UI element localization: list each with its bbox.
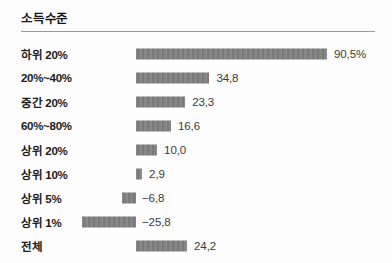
category-label: 상위 5% — [21, 190, 61, 206]
category-label: 중간 20% — [21, 94, 67, 110]
value-label: 34,8 — [216, 72, 238, 84]
bar — [82, 217, 136, 228]
income-level-bar-chart: 소득수준 하위 20%90,5%20%~40%34,8중간 20%23,360%… — [0, 0, 392, 263]
plot-area: 하위 20%90,5%20%~40%34,8중간 20%23,360%~80%1… — [0, 36, 392, 258]
bar — [122, 193, 136, 204]
chart-row: 상위 20%10,0 — [0, 138, 392, 162]
chart-row: 상위 10%2,9 — [0, 162, 392, 186]
bar — [136, 145, 157, 156]
chart-row: 20%~40%34,8 — [0, 66, 392, 90]
bar — [136, 73, 209, 84]
bar — [136, 241, 187, 252]
category-label: 20%~40% — [21, 72, 72, 84]
value-label: 90,5% — [334, 48, 366, 60]
category-label: 하위 20% — [21, 46, 67, 62]
chart-row: 중간 20%23,3 — [0, 90, 392, 114]
chart-row: 하위 20%90,5% — [0, 42, 392, 66]
category-label: 상위 10% — [21, 166, 67, 182]
category-label: 상위 20% — [21, 142, 67, 158]
bar — [136, 121, 171, 132]
value-label: 16,6 — [178, 120, 200, 132]
chart-row: 전체24,2 — [0, 234, 392, 258]
category-label: 상위 1% — [21, 214, 61, 230]
title-divider — [21, 31, 375, 32]
bar — [136, 97, 185, 108]
chart-row: 상위 1%−25,8 — [0, 210, 392, 234]
category-label: 60%~80% — [21, 120, 72, 132]
value-label: 23,3 — [192, 96, 214, 108]
chart-row: 상위 5%−6,8 — [0, 186, 392, 210]
value-label: 2,9 — [149, 168, 165, 180]
bar — [136, 169, 142, 180]
value-label: 24,2 — [194, 240, 216, 252]
chart-title: 소득수준 — [21, 8, 68, 27]
category-label: 전체 — [21, 238, 42, 254]
chart-row: 60%~80%16,6 — [0, 114, 392, 138]
value-label: 10,0 — [164, 144, 186, 156]
bar — [136, 49, 327, 60]
value-label: −25,8 — [142, 216, 171, 228]
value-label: −6,8 — [142, 192, 164, 204]
